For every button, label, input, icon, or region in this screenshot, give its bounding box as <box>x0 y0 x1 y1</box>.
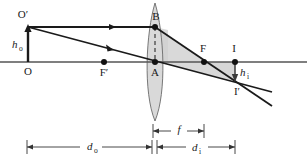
label-image-base: I <box>232 42 236 54</box>
focal-length-dimension: f <box>153 123 204 138</box>
label-object-distance-subscript: o <box>94 146 98 155</box>
object-arrow <box>24 24 31 62</box>
label-lens-top-point: B <box>152 10 159 22</box>
point-dot-F <box>201 59 207 65</box>
label-object-height: h o <box>12 38 23 53</box>
object-distance-dimension: d o <box>27 140 152 155</box>
image-distance-dimension: d i <box>157 140 235 156</box>
label-image-tip: I′ <box>234 85 240 97</box>
label-near-focal: F′ <box>100 66 109 78</box>
label-object-base: O <box>24 65 32 77</box>
point-dot-F-prime <box>101 59 107 65</box>
label-image-height-symbol: h <box>240 66 246 78</box>
label-object-distance-symbol: d <box>87 140 93 152</box>
point-dot-I <box>232 59 238 65</box>
label-object-top: O′ <box>18 8 28 20</box>
optics-ray-diagram: O′ O h o F′ B A F I I′ h i f <box>0 0 307 160</box>
label-object-height-subscript: o <box>19 44 23 53</box>
point-dot-A <box>152 59 158 65</box>
label-lens-center-point: A <box>151 66 159 78</box>
label-image-height: h i <box>240 66 249 81</box>
label-far-focal: F <box>200 42 206 54</box>
label-image-distance-symbol: d <box>192 141 198 153</box>
label-image-distance-subscript: i <box>199 147 201 156</box>
ray-diagram-canvas: O′ O h o F′ B A F I I′ h i f <box>0 0 307 160</box>
point-dot-B <box>152 24 158 30</box>
label-object-height-symbol: h <box>12 38 18 50</box>
label-image-height-subscript: i <box>247 72 249 81</box>
